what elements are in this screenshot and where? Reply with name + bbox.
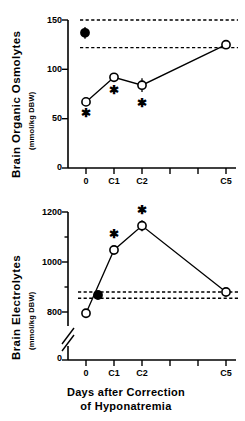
significance-star-osmolytes-c2: ✱ <box>137 96 147 110</box>
x-tick-electrolytes-c5: C5 <box>216 368 236 378</box>
x-tick-electrolytes-c1: C1 <box>104 368 124 378</box>
significance-star-electrolytes-c1: ✱ <box>109 227 119 241</box>
significance-star-electrolytes-c2: ✱ <box>137 203 147 217</box>
x-tick-electrolytes-c2: C2 <box>132 368 152 378</box>
y-tickmarks-osmolytes <box>62 20 68 168</box>
error-bars-osmolytes <box>86 41 226 106</box>
x-tickmarks-osmolytes <box>86 168 226 174</box>
x-tick-osmolytes-c2: C2 <box>132 176 152 186</box>
figure-two-panel-chart: Brain Organic Osmolytes (mmol/kg DBW) 15… <box>0 0 245 421</box>
series-polyline-electrolytes <box>86 226 226 314</box>
datapoint-electrolytes-c2 <box>138 222 146 230</box>
datapoint-control-osmolytes <box>81 29 89 37</box>
panel-brain-organic-osmolytes: Brain Organic Osmolytes (mmol/kg DBW) 15… <box>0 0 245 200</box>
datapoint-electrolytes-c5 <box>222 288 230 296</box>
x-tick-osmolytes-c1: C1 <box>104 176 124 186</box>
datapoint-control-electrolytes <box>94 291 102 299</box>
x-tickmarks-electrolytes <box>86 360 226 366</box>
x-axis-title-line1: Days after Correction <box>16 386 236 399</box>
panel-brain-electrolytes: Brain Electrolytes (mmol/kg DBW) 1200 10… <box>0 200 245 421</box>
plot-area-osmolytes: ✱ ✱ ✱ <box>0 0 245 200</box>
x-tick-osmolytes-0: 0 <box>76 176 96 186</box>
x-axis-title-line2: of Hyponatremia <box>16 400 236 413</box>
x-tick-osmolytes-c5: C5 <box>216 176 236 186</box>
datapoint-electrolytes-c1 <box>110 246 118 254</box>
significance-star-osmolytes-day0: ✱ <box>81 106 91 120</box>
error-bars-electrolytes <box>86 220 226 315</box>
datapoint-osmolytes-c1 <box>110 73 118 81</box>
datapoint-osmolytes-day0 <box>82 98 90 106</box>
significance-star-osmolytes-c1: ✱ <box>109 83 119 97</box>
series-polyline-osmolytes <box>86 45 226 102</box>
datapoint-osmolytes-c2 <box>138 81 146 89</box>
datapoint-electrolytes-day0 <box>82 309 90 317</box>
x-tick-electrolytes-0: 0 <box>76 368 96 378</box>
datapoint-osmolytes-c5 <box>222 41 230 49</box>
